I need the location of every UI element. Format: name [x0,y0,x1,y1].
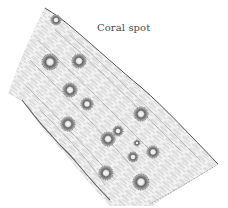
pustule [134,140,140,146]
pustule [81,98,93,110]
pustule [63,83,77,97]
pustule [99,166,113,180]
pustule [61,117,75,131]
pustule [128,152,138,162]
illustration-caption: Coral spot [97,22,150,33]
illustration-canvas: Coral spot [0,0,228,208]
pustule [72,54,86,68]
pustule [134,107,148,121]
pustule [113,126,123,136]
pustule [42,54,58,70]
pustule [133,174,149,190]
pustule [51,15,61,25]
pustule [147,146,159,158]
pustule [101,132,115,146]
